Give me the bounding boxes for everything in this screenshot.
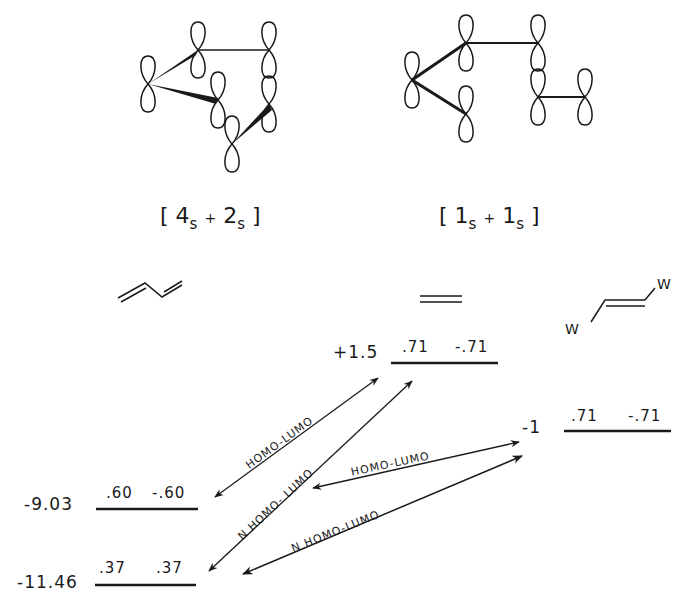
butadiene-structure [118, 281, 182, 302]
coef-w-ethylene-c2: -.71 [628, 409, 661, 424]
cycloaddition-4s2s-orbitals [141, 22, 276, 172]
cycloaddition-1s1s-orbitals [405, 15, 592, 142]
coef-diene-homo-c1: .60 [106, 486, 133, 501]
arrow-nhomo-lumo-2 [243, 456, 522, 574]
w-ethylene-structure [591, 288, 655, 322]
label-1s-1s: [ 1s + 1s ] [439, 205, 540, 232]
coef-diene-homo-c2: -.60 [152, 486, 185, 501]
orbital-diagram-graphics [0, 0, 690, 610]
coef-ethylene-c1: .71 [402, 340, 429, 355]
energy-ethylene-lumo: +1.5 [333, 344, 378, 361]
coef-diene-nhomo-c1: .37 [99, 561, 126, 576]
coef-ethylene-c2: -.71 [455, 340, 488, 355]
ethylene-structure [420, 296, 462, 302]
coef-w-ethylene-c1: .71 [571, 409, 598, 424]
label-4s-2s: [ 4s + 2s ] [160, 205, 261, 232]
substituent-w-left: W [565, 322, 579, 336]
coef-diene-nhomo-c2: .37 [156, 561, 183, 576]
energy-w-ethylene-lumo: -1 [522, 419, 541, 436]
substituent-w-right: W [657, 277, 671, 291]
energy-diene-homo: -9.03 [24, 496, 73, 513]
energy-diene-nhomo: -11.46 [17, 574, 78, 591]
